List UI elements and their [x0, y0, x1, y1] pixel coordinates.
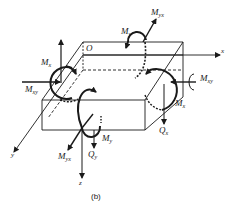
z-axis-label: z — [79, 180, 82, 187]
x-axis-label: x — [221, 48, 224, 55]
my-bottom-label: My — [102, 134, 112, 144]
y-axis-label: y — [11, 152, 14, 159]
front-face-moments — [68, 90, 101, 150]
myx-top-label: Myx — [151, 8, 164, 18]
origin-label: O — [86, 44, 93, 53]
qy-label: Qy — [88, 150, 97, 160]
diagram-drawing — [0, 0, 229, 211]
mxy-right-label: Mxy — [200, 74, 213, 84]
myx-bottom-label: Myx — [58, 152, 71, 162]
plate-element-moment-diagram: O x y z Mx Mxy My Myx Mxy Mx Qx My Myx Q… — [0, 0, 229, 211]
right-face-moments — [145, 69, 196, 124]
axes — [14, 55, 220, 178]
figure-caption: (b) — [91, 192, 101, 201]
mxy-left-label: Mxy — [25, 85, 38, 95]
my-top-label: My — [121, 27, 131, 37]
mx-right-label: Mx — [175, 99, 185, 109]
qx-label: Qx — [159, 126, 168, 136]
mx-left-label: Mx — [41, 58, 51, 68]
